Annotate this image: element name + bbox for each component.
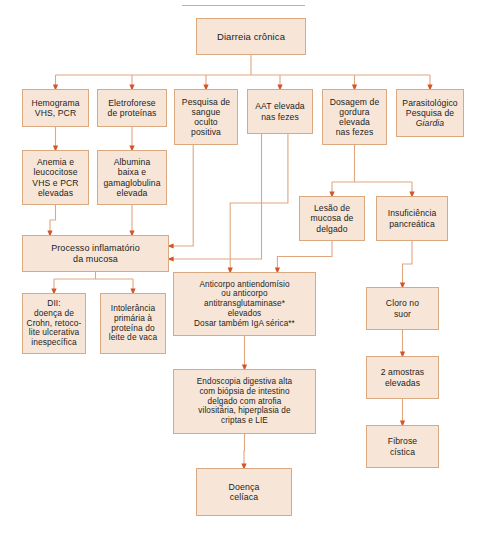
node-anemia: Anemia eleucocitoseVHS e PCRelevadas [22, 150, 89, 205]
connector-aat-anticorpo [230, 134, 288, 271]
node-albumina: Albuminabaixa egamaglobulinaelevada [97, 150, 167, 205]
node-aat: AAT elevadanas fezes [247, 89, 313, 134]
node-label: Eletroforesede proteínas [101, 98, 163, 118]
connector-aat-processo [171, 134, 262, 259]
node-gordura: Dosagem degorduraelevadanas fezes [322, 89, 387, 145]
flowchart-canvas: Diarreia crônicaHemogramaVHS, PCREletrof… [0, 0, 480, 536]
top-edge-artifact [182, 5, 305, 6]
node-label: Insuficiênciapancreática [380, 208, 444, 228]
node-label: Anemia eleucocitoseVHS e PCRelevadas [26, 157, 85, 198]
node-label: DII:doença deCrohn, retoco-lite ulcerati… [26, 299, 82, 349]
node-root: Diarreia crônica [196, 18, 306, 55]
node-parasito: ParasitológicoPesquisa deGiardia [396, 89, 464, 137]
node-label: Fibrosecística [370, 436, 435, 456]
node-intoleranca: Intolerânciaprimária àproteína doleite d… [100, 293, 166, 354]
node-celiaca: Doençacelíaca [196, 468, 292, 516]
node-anticorpo: Anticorpo antiendomísioou anticorpoantit… [173, 272, 316, 336]
node-hemograma: HemogramaVHS, PCR [22, 89, 89, 127]
connector-sangue-processo [171, 145, 194, 246]
connector-endoscopia-celiaca [244, 434, 245, 467]
node-endoscopia: Endoscopia digestiva altacom biópsia de … [173, 369, 316, 434]
node-lesao: Lesão demucosa dedelgado [299, 196, 365, 241]
node-insuf: Insuficiênciapancreática [376, 196, 448, 241]
node-label: Pesquisa desangueocultopositiva [178, 97, 234, 138]
node-label: AAT elevadanas fezes [251, 101, 309, 121]
connector-anemia-processo [50, 205, 56, 234]
node-processo: Processo inflamatórioda mucosa [22, 235, 169, 272]
node-amostras: 2 amostraselevadas [366, 356, 439, 399]
node-label: Anticorpo antiendomísioou anticorpoantit… [177, 280, 312, 328]
node-label: Cloro nosuor [370, 298, 435, 318]
node-label: Processo inflamatórioda mucosa [26, 243, 165, 264]
node-eletroforese: Eletroforesede proteínas [97, 89, 167, 127]
connector-insuf-cloro [403, 241, 413, 286]
node-fibrose: Fibrosecística [366, 425, 439, 468]
connector-lesao-anticorpo [277, 241, 332, 271]
node-label: Doençacelíaca [200, 482, 288, 503]
node-label: Albuminabaixa egamaglobulinaelevada [101, 157, 163, 198]
node-label: Intolerânciaprimária àproteína doleite d… [104, 304, 162, 344]
node-dii: DII:doença deCrohn, retoco-lite ulcerati… [22, 293, 86, 354]
node-label: Diarreia crônica [200, 31, 302, 42]
node-label: Lesão demucosa dedelgado [303, 203, 361, 233]
node-label: ParasitológicoPesquisa deGiardia [400, 98, 460, 128]
node-sangue: Pesquisa desangueocultopositiva [174, 89, 238, 145]
node-label: Dosagem degorduraelevadanas fezes [326, 97, 383, 138]
node-cloro: Cloro nosuor [366, 287, 439, 330]
node-label: Endoscopia digestiva altacom biópsia de … [177, 377, 312, 425]
node-label: 2 amostraselevadas [370, 367, 435, 387]
node-label: HemogramaVHS, PCR [26, 98, 85, 118]
